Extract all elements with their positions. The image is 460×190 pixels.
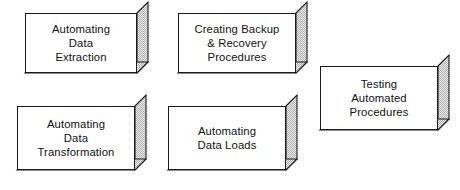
process-box-label: Automating Data Loads [194,124,261,152]
process-box-automating-data-extraction[interactable]: Automating Data Extraction [25,13,137,73]
process-box-automating-data-transformation[interactable]: Automating Data Transformation [17,106,135,170]
process-diagram: Automating Data ExtractionCreating Backu… [0,0,460,190]
box-front-face: Automating Data Extraction [25,13,137,73]
process-box-testing-automated-procedures[interactable]: Testing Automated Procedures [320,66,438,130]
box-front-face: Testing Automated Procedures [320,66,438,130]
process-box-label: Automating Data Transformation [34,117,119,160]
box-front-face: Automating Data Transformation [17,106,135,170]
process-box-label: Testing Automated Procedures [346,77,413,120]
process-box-label: Automating Data Extraction [48,22,114,65]
box-front-face: Automating Data Loads [168,106,286,170]
process-box-automating-data-loads[interactable]: Automating Data Loads [168,106,286,170]
box-front-face: Creating Backup & Recovery Procedures [178,13,296,73]
process-box-creating-backup-recovery-procedures[interactable]: Creating Backup & Recovery Procedures [178,13,296,73]
process-box-label: Creating Backup & Recovery Procedures [190,22,283,65]
